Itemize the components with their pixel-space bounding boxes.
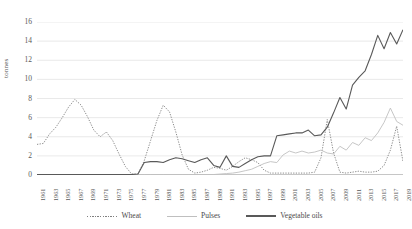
series-line <box>37 99 403 174</box>
chart-legend: WheatPulsesVegetable oils <box>0 208 410 224</box>
x-axis-tick-label: 1993 <box>242 189 248 201</box>
legend-swatch-icon <box>87 216 117 217</box>
x-axis-tick-label: 1965 <box>65 189 71 201</box>
legend-swatch-icon <box>246 215 276 216</box>
x-axis-tick-label: 1981 <box>166 189 172 201</box>
x-axis-tick-label: 2013 <box>368 189 374 201</box>
x-axis-tick-label: 1971 <box>103 189 109 201</box>
y-axis-tick-label: 8 <box>16 95 32 103</box>
legend-item[interactable]: Wheat <box>87 212 141 220</box>
legend-label: Pulses <box>201 212 220 220</box>
x-axis-tick-label: 1973 <box>116 189 122 201</box>
legend-item[interactable]: Vegetable oils <box>246 212 322 220</box>
x-axis-tick-label: 1989 <box>217 189 223 201</box>
x-axis-tick-label: 2003 <box>305 189 311 201</box>
x-axis-tick-label: 1987 <box>204 189 210 201</box>
x-axis-tick-label: 1977 <box>141 189 147 201</box>
x-axis-ticks: 1961196319651967196919711973197519771979… <box>37 177 403 203</box>
y-axis-tick-label: 12 <box>16 56 32 64</box>
y-axis-tick-label: 2 <box>16 152 32 160</box>
x-axis-tick-label: 1997 <box>267 189 273 201</box>
x-axis-tick-label: 1963 <box>53 189 59 201</box>
x-axis-tick-label: 1995 <box>255 189 261 201</box>
x-axis-tick-label: 1969 <box>90 189 96 201</box>
x-axis-tick-label: 1975 <box>128 189 134 201</box>
legend-label: Wheat <box>121 212 141 220</box>
series-lines <box>37 22 403 175</box>
y-axis-tick-label: 0 <box>16 171 32 179</box>
x-axis-tick-label: 2017 <box>393 189 399 201</box>
y-axis-title: tonnes <box>2 59 10 78</box>
series-line <box>37 108 403 174</box>
x-axis-tick-label: 2011 <box>356 189 362 201</box>
x-axis-tick-label: 1983 <box>179 189 185 201</box>
x-axis-tick-label: 2005 <box>318 189 324 201</box>
y-axis-tick-label: 4 <box>16 133 32 141</box>
x-axis-tick-label: 1961 <box>40 189 46 201</box>
x-axis-tick-label: 2001 <box>292 189 298 201</box>
legend-label: Vegetable oils <box>280 212 322 220</box>
y-axis-tick-label: 10 <box>16 75 32 83</box>
x-axis-tick-label: 1999 <box>280 189 286 201</box>
x-axis-tick-label: 2007 <box>330 189 336 201</box>
x-axis-tick-label: 1979 <box>154 189 160 201</box>
x-axis-tick-label: 1967 <box>78 189 84 201</box>
x-axis-tick-label: 1991 <box>229 189 235 201</box>
x-axis-tick-label: 2019 <box>406 189 412 201</box>
legend-item[interactable]: Pulses <box>167 212 220 220</box>
x-axis-tick-label: 2009 <box>343 189 349 201</box>
series-line <box>37 30 403 175</box>
y-axis-tick-label: 6 <box>16 114 32 122</box>
legend-swatch-icon <box>167 216 197 217</box>
plot-area <box>37 22 403 175</box>
x-axis-tick-label: 1985 <box>191 189 197 201</box>
y-axis-tick-label: 14 <box>16 37 32 45</box>
x-axis-tick-label: 2015 <box>381 189 387 201</box>
y-axis-tick-label: 16 <box>16 18 32 26</box>
